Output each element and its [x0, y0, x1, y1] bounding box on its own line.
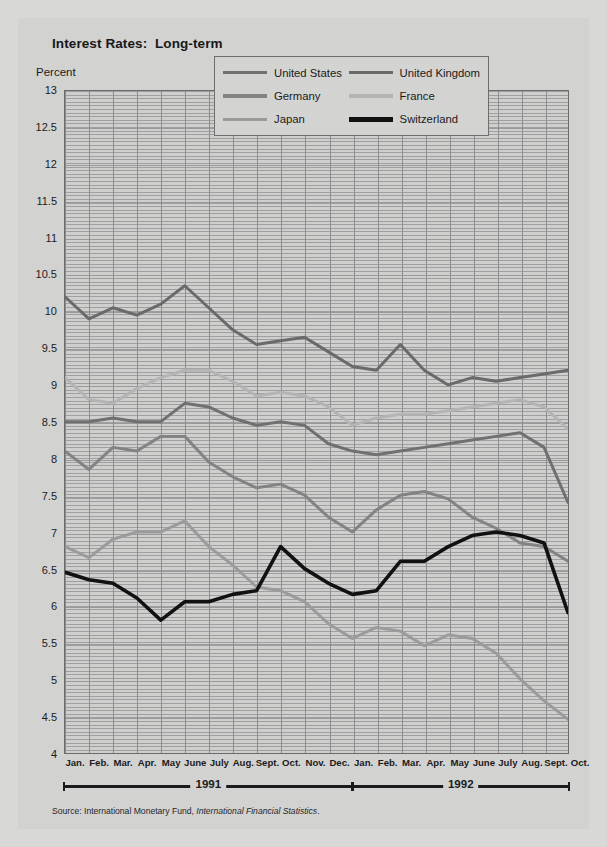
- y-tick-label: 5: [51, 674, 57, 686]
- year-bands: 19911992: [64, 778, 569, 796]
- y-tick-label: 10: [45, 305, 57, 317]
- y-tick-label: 8.5: [42, 416, 57, 428]
- x-tick-label: Feb.: [378, 757, 398, 768]
- legend-item-united-kingdom: United Kingdom: [349, 67, 480, 79]
- y-tick-label: 6.5: [42, 564, 57, 576]
- x-tick-label: Oct.: [282, 757, 301, 768]
- y-axis-title: Percent: [36, 66, 76, 78]
- series-line-switzerland: [65, 532, 568, 620]
- x-tick-label: July: [210, 757, 229, 768]
- year-band: 1991: [63, 778, 354, 794]
- x-tick-label: June: [473, 757, 495, 768]
- series-line-japan: [65, 521, 568, 719]
- legend-swatch: [223, 71, 267, 74]
- chart-page: Interest Rates: Long-term Percent 1312.5…: [18, 18, 589, 829]
- y-tick-label: 5.5: [42, 637, 57, 649]
- y-tick-label: 7: [51, 527, 57, 539]
- series-lines: [65, 91, 568, 752]
- legend-item-france: France: [349, 90, 480, 102]
- y-axis: 1312.51211.51110.5109.598.587.576.565.55…: [18, 90, 62, 754]
- legend-swatch: [349, 94, 393, 97]
- page-title: Interest Rates: Long-term: [52, 36, 223, 51]
- legend-label: Germany: [274, 90, 320, 102]
- legend-item-switzerland: Switzerland: [349, 113, 480, 125]
- y-tick-label: 4.5: [42, 711, 57, 723]
- x-tick-label: Sept.: [544, 757, 567, 768]
- legend-item-germany: Germany: [223, 90, 349, 102]
- legend-label: United States: [274, 67, 342, 79]
- legend-label: Switzerland: [400, 113, 458, 125]
- x-tick-label: June: [184, 757, 206, 768]
- source-publication: International Financial Statistics: [196, 806, 317, 816]
- chart-legend: United StatesUnited KingdomGermanyFrance…: [214, 56, 489, 136]
- legend-item-japan: Japan: [223, 113, 349, 125]
- y-tick-label: 8: [51, 453, 57, 465]
- legend-swatch: [349, 117, 393, 122]
- plot-frame: [64, 90, 569, 754]
- source-prefix: Source: International Monetary Fund,: [52, 806, 196, 816]
- y-tick-label: 12: [45, 158, 57, 170]
- x-tick-label: Mar.: [402, 757, 421, 768]
- x-tick-label: May: [450, 757, 469, 768]
- legend-item-united-states: United States: [223, 67, 349, 79]
- legend-swatch: [349, 71, 393, 74]
- y-tick-label: 10.5: [36, 268, 57, 280]
- year-band: 1992: [352, 778, 570, 794]
- x-tick-label: Dec.: [329, 757, 349, 768]
- legend-swatch: [223, 118, 267, 121]
- x-tick-label: May: [162, 757, 181, 768]
- x-tick-label: Oct.: [571, 757, 590, 768]
- x-tick-label: Apr.: [138, 757, 157, 768]
- series-line-germany: [65, 436, 568, 561]
- y-tick-label: 12.5: [36, 121, 57, 133]
- year-tick-left: [63, 782, 65, 791]
- y-tick-label: 11: [46, 232, 57, 244]
- x-tick-label: Jan.: [354, 757, 373, 768]
- year-label: 1991: [190, 778, 226, 790]
- y-tick-label: 13: [45, 84, 57, 96]
- y-tick-label: 6: [51, 600, 57, 612]
- x-tick-label: Aug.: [521, 757, 542, 768]
- x-tick-label: July: [498, 757, 517, 768]
- x-tick-label: Aug.: [233, 757, 254, 768]
- x-tick-label: Mar.: [114, 757, 133, 768]
- x-tick-label: Nov.: [305, 757, 325, 768]
- legend-label: Japan: [274, 113, 305, 125]
- series-line-united-states: [65, 403, 568, 502]
- y-tick-label: 9: [51, 379, 57, 391]
- plot-area: [64, 90, 569, 754]
- y-tick-label: 7.5: [42, 490, 57, 502]
- year-tick-right: [568, 782, 570, 791]
- legend-swatch: [223, 94, 267, 97]
- x-tick-label: Sept.: [256, 757, 279, 768]
- x-axis: Jan.Feb.Mar.Apr.MayJuneJulyAug.Sept.Oct.…: [64, 757, 569, 773]
- legend-label: United Kingdom: [400, 67, 480, 79]
- y-tick-label: 11.5: [36, 195, 57, 207]
- source-note: Source: International Monetary Fund, Int…: [52, 806, 320, 816]
- legend-label: France: [400, 90, 435, 102]
- year-label: 1992: [443, 778, 479, 790]
- series-line-united-kingdom: [65, 286, 568, 385]
- x-tick-label: Jan.: [65, 757, 84, 768]
- y-tick-label: 4: [51, 748, 57, 760]
- x-tick-label: Apr.: [426, 757, 445, 768]
- y-tick-label: 9.5: [42, 342, 57, 354]
- source-suffix: .: [317, 806, 319, 816]
- year-tick-left: [352, 782, 354, 791]
- x-tick-label: Feb.: [89, 757, 109, 768]
